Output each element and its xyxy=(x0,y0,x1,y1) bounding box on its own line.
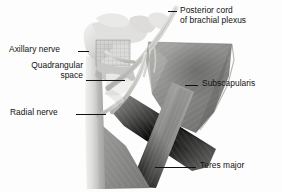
label-quadrangular-space-line2: space xyxy=(60,70,83,80)
leader-axillary-nerve xyxy=(78,51,89,52)
leader-quadrangular-space xyxy=(86,80,125,81)
label-axillary-nerve: Axillary nerve xyxy=(9,44,60,54)
label-subscapularis: Subscapularis xyxy=(202,78,255,88)
label-posterior-cord: Posterior cord of brachial plexus xyxy=(180,5,280,25)
label-quadrangular-space: Quadrangular space xyxy=(9,60,83,80)
label-posterior-cord-line2: of brachial plexus xyxy=(180,15,246,25)
anatomy-figure: Axillary nerve Quadrangular space Radial… xyxy=(0,0,282,192)
leader-radial-nerve xyxy=(76,114,106,115)
label-teres-major: Teres major xyxy=(200,160,244,170)
label-radial-nerve: Radial nerve xyxy=(10,107,58,117)
label-quadrangular-space-line1: Quadrangular xyxy=(31,60,83,70)
leader-posterior-cord xyxy=(168,11,177,12)
leader-subscapularis xyxy=(185,85,198,86)
label-posterior-cord-line1: Posterior cord xyxy=(180,5,233,15)
leader-teres-major xyxy=(155,167,196,168)
